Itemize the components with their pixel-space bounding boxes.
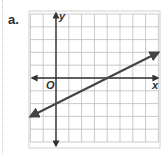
x-axis-label: x bbox=[151, 79, 159, 91]
coordinate-graph: y x O bbox=[0, 0, 168, 154]
y-axis-label: y bbox=[58, 10, 66, 22]
origin-label: O bbox=[46, 79, 55, 91]
